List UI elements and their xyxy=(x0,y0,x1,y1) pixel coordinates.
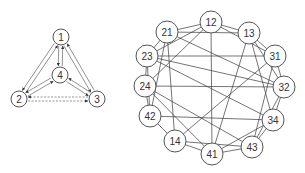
node-label: 24 xyxy=(139,81,151,92)
node-label: 31 xyxy=(269,51,281,62)
node-label: 42 xyxy=(144,111,156,122)
node-2: 2 xyxy=(11,91,27,107)
edge-12-41 xyxy=(211,22,212,154)
node-21: 21 xyxy=(156,21,178,43)
node-13: 13 xyxy=(238,22,260,44)
diagram-canvas: 1423 121331323443411442242321 xyxy=(0,0,305,173)
edge-2-to-1 xyxy=(26,46,58,93)
node-42: 42 xyxy=(139,105,161,127)
node-label: 43 xyxy=(246,142,258,153)
node-label: 34 xyxy=(267,115,279,126)
edge-23-32 xyxy=(147,56,284,87)
edge-21-42 xyxy=(150,32,167,116)
node-1: 1 xyxy=(53,29,69,45)
edge-23-34 xyxy=(147,56,273,120)
node-label: 21 xyxy=(161,27,173,38)
edge-1-to-3 xyxy=(64,46,91,92)
node-label: 41 xyxy=(206,149,218,160)
right-graph-nodes: 121331323443411442242321 xyxy=(134,11,295,165)
node-41: 41 xyxy=(201,143,223,165)
node-31: 31 xyxy=(264,45,286,67)
node-14: 14 xyxy=(164,130,186,152)
edge-4-to-1 xyxy=(62,46,63,66)
node-4: 4 xyxy=(52,67,68,83)
node-34: 34 xyxy=(262,109,284,131)
edge-3-to-1 xyxy=(67,44,94,90)
node-24: 24 xyxy=(134,75,156,97)
edge-24-32 xyxy=(145,86,284,87)
node-32: 32 xyxy=(273,76,295,98)
node-label: 2 xyxy=(16,94,22,105)
node-label: 3 xyxy=(94,94,100,105)
node-label: 23 xyxy=(141,51,153,62)
node-23: 23 xyxy=(136,45,158,67)
node-43: 43 xyxy=(241,136,263,158)
node-label: 1 xyxy=(58,32,64,43)
node-label: 4 xyxy=(57,70,63,81)
node-label: 13 xyxy=(243,28,255,39)
edge-14-31 xyxy=(175,56,275,141)
edge-1-to-4 xyxy=(58,46,59,66)
node-label: 32 xyxy=(278,82,290,93)
left-graph-nodes: 1423 xyxy=(11,29,105,107)
node-3: 3 xyxy=(89,91,105,107)
node-label: 14 xyxy=(169,136,181,147)
node-12: 12 xyxy=(200,11,222,33)
node-label: 12 xyxy=(205,17,217,28)
edge-31-43 xyxy=(252,56,275,147)
